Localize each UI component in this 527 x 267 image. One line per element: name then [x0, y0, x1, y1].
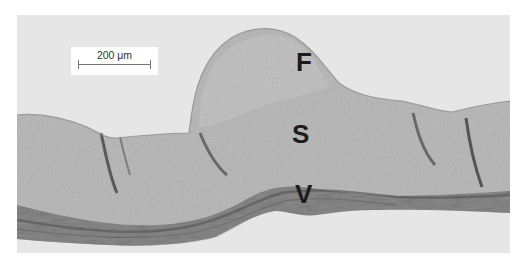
scale-bar-tick-left — [78, 60, 79, 69]
scale-bar-label: 200 μm — [71, 49, 158, 61]
scale-bar: 200 μm — [71, 47, 158, 75]
label-fibrous-cap: F — [296, 49, 312, 75]
label-vessel-wall: V — [295, 181, 312, 207]
label-smooth-muscle: S — [292, 121, 309, 147]
scale-bar-tick-right — [150, 60, 151, 69]
scale-bar-line — [78, 64, 151, 65]
